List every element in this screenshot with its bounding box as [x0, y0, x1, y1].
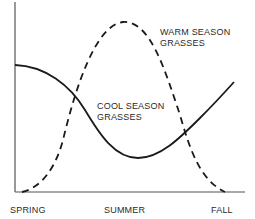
seasonal-grass-chart: WARM SEASON GRASSES COOL SEASON GRASSES … [0, 0, 255, 219]
warm-season-label-line2: GRASSES [160, 38, 205, 48]
x-tick-summer: SUMMER [104, 205, 145, 215]
warm-season-label-line1: WARM SEASON [160, 27, 230, 37]
x-tick-spring: SPRING [10, 205, 46, 215]
x-tick-fall: FALL [211, 205, 233, 215]
cool-season-label-line2: GRASSES [97, 112, 142, 122]
cool-season-label-line1: COOL SEASON [97, 101, 164, 111]
